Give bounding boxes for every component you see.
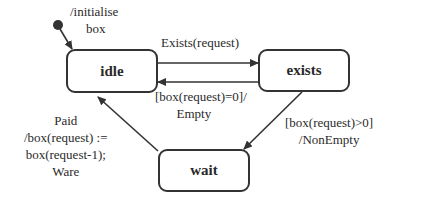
initial-action-label: /initialise box bbox=[64, 3, 118, 37]
state-idle-label: idle bbox=[100, 63, 123, 80]
transition-label-exists-to-wait: [box(request)>0] /NonEmpty bbox=[285, 114, 373, 148]
state-idle: idle bbox=[66, 49, 158, 93]
state-wait: wait bbox=[158, 149, 250, 192]
state-exists: exists bbox=[258, 49, 350, 92]
state-diagram: idle exists wait /initialise box Exists(… bbox=[0, 0, 425, 206]
initial-state-dot bbox=[53, 20, 63, 30]
state-wait-label: wait bbox=[190, 162, 218, 179]
state-exists-label: exists bbox=[287, 62, 322, 79]
transition-label-exists-to-idle: [box(request)=0]/ Empty bbox=[155, 88, 247, 122]
transition-label-wait-to-idle: Paid /box(request) := box(request-1); Wa… bbox=[24, 112, 108, 180]
transition-label-idle-to-exists: Exists(request) bbox=[161, 34, 239, 51]
